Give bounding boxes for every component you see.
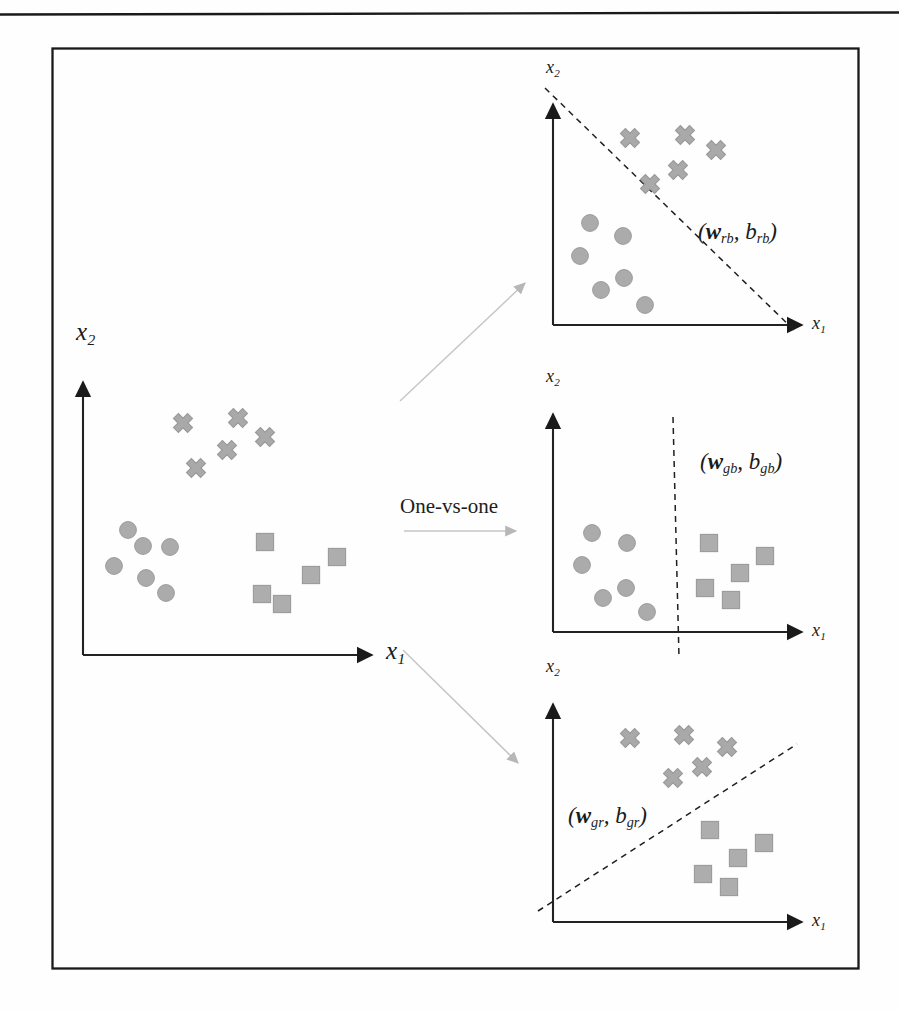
gr-y-axis-label: x2 <box>546 656 560 677</box>
rb-x-axis-label: x1 <box>812 313 826 334</box>
gr-x-axis-label: x1 <box>812 910 826 931</box>
arrow-to-gr-panel <box>403 650 518 763</box>
one-vs-one-label: One-vs-one <box>400 494 498 519</box>
panel-gb-points <box>574 525 774 621</box>
rb-y-axis-label: x2 <box>546 57 560 78</box>
arrow-to-rb-panel <box>400 283 525 401</box>
rb-boundary-label: (wrb, brb) <box>698 219 777 245</box>
panel-gb-axes <box>553 414 802 632</box>
rb-decision-boundary <box>545 88 795 331</box>
main-x-axis-label: x1 <box>386 637 405 665</box>
page-top-rule <box>0 13 899 15</box>
panel-main-axes <box>83 382 372 655</box>
figure-page: x2 x1 One-vs-one x2 x1 (wrb, brb) x2 x1 … <box>0 0 899 1011</box>
flow-arrows <box>400 283 525 763</box>
gb-decision-boundary <box>673 417 679 657</box>
main-y-axis-label: x2 <box>76 318 95 346</box>
gr-boundary-label: (wgr, bgr) <box>568 803 647 829</box>
gb-boundary-label: (wgb, bgb) <box>700 449 782 475</box>
gb-x-axis-label: x1 <box>812 620 826 641</box>
gb-y-axis-label: x2 <box>546 366 560 387</box>
panel-main-points <box>106 409 346 613</box>
